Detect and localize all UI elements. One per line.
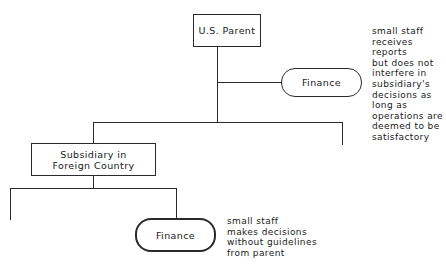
- annotation-subsidiary-finance: small staff makes decisions without guid…: [227, 216, 337, 258]
- connector-parent-trunk: [217, 46, 218, 123]
- connector-parent-branch-bar: [93, 122, 343, 123]
- node-us-parent-label: U.S. Parent: [199, 25, 256, 36]
- connector-parent-to-finance: [217, 82, 282, 83]
- node-subsidiary-label-line1: Subsidiary in: [60, 149, 127, 160]
- connector-subsidiary-left-drop: [10, 188, 11, 220]
- node-us-parent: U.S. Parent: [193, 14, 261, 47]
- connector-subsidiary-branch-bar: [10, 188, 177, 189]
- connector-parent-right-drop: [342, 122, 343, 145]
- connector-subsidiary-trunk: [93, 175, 94, 188]
- node-subsidiary-label-line2: Foreign Country: [53, 160, 135, 171]
- annotation-parent-finance: small staff receives reports but does no…: [372, 26, 446, 143]
- connector-to-subsidiary: [93, 122, 94, 143]
- node-subsidiary-finance: Finance: [135, 218, 216, 252]
- node-subsidiary: Subsidiary in Foreign Country: [31, 143, 156, 176]
- node-parent-finance-label: Finance: [302, 77, 341, 88]
- node-subsidiary-finance-label: Finance: [156, 230, 195, 241]
- node-parent-finance: Finance: [281, 68, 362, 97]
- connector-to-subsidiary-finance: [176, 188, 177, 219]
